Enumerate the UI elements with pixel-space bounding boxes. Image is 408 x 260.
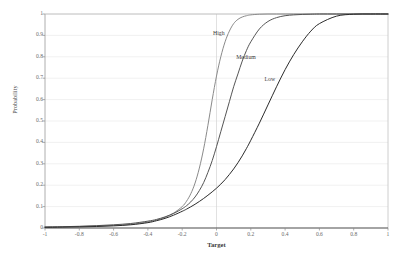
- x-tick-label: -0.6: [99, 232, 129, 238]
- x-tick-label: -0.4: [133, 232, 163, 238]
- probability-vs-target-chart: Probability 00.10.20.30.40.50.60.70.80.9…: [0, 0, 408, 260]
- plot-canvas: [0, 0, 408, 260]
- x-tick-label: 0.8: [339, 232, 369, 238]
- x-tick-label: 1: [373, 232, 403, 238]
- axis-ticks: [43, 14, 389, 231]
- curve-label-low: Low: [265, 76, 276, 82]
- x-tick-label: 0: [202, 232, 232, 238]
- x-tick-label: 0.2: [236, 232, 266, 238]
- x-axis-title: Target: [45, 241, 388, 248]
- curve-label-medium: Medium: [236, 54, 256, 60]
- x-tick-label: -1: [30, 232, 60, 238]
- x-tick-label: -0.8: [64, 232, 94, 238]
- x-tick-label: 0.4: [270, 232, 300, 238]
- x-tick-label: 0.6: [304, 232, 334, 238]
- x-tick-label: -0.2: [167, 232, 197, 238]
- curve-label-high: High: [213, 30, 225, 36]
